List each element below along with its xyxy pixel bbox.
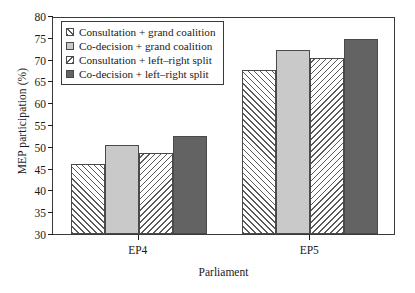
y-axis-tick-mark: [48, 38, 53, 39]
legend-item-2: Co-decision + grand coalition: [66, 39, 216, 53]
bar-ep5-series-1: [242, 70, 276, 234]
y-axis-tick-mark: [48, 81, 53, 82]
y-axis-tick-label: 55: [18, 120, 46, 132]
bar-ep4-series-1: [71, 164, 105, 234]
y-axis-tick-label: 35: [18, 207, 46, 219]
y-axis-tick-mark: [48, 60, 53, 61]
y-axis-tick-label: 30: [18, 229, 46, 241]
y-axis-tick-label: 45: [18, 164, 46, 176]
legend-swatch-icon: [66, 70, 74, 78]
legend-label: Consultation + grand coalition: [79, 26, 216, 39]
y-axis-tick-labels: 3035404550556065707580: [18, 11, 46, 235]
y-axis-tick-mark: [48, 147, 53, 148]
y-axis-tick-label: 80: [18, 11, 46, 23]
legend: Consultation + grand coalitionCo-decisio…: [61, 21, 224, 85]
y-axis-tick-label: 50: [18, 142, 46, 154]
y-axis-tick-label: 40: [18, 185, 46, 197]
legend-item-4: Co-decision + left–right split: [66, 67, 216, 81]
x-axis-tick-label-ep5: EP5: [274, 244, 344, 256]
bar-ep5-series-2: [276, 50, 310, 234]
y-axis-tick-mark: [48, 190, 53, 191]
x-axis-title: Parliament: [52, 266, 395, 278]
bar-chart-figure: MEP participation (%) 303540455055606570…: [0, 0, 415, 293]
y-axis-tick-label: 70: [18, 55, 46, 67]
legend-swatch-icon: [66, 56, 74, 64]
y-axis-tick-mark: [48, 212, 53, 213]
y-axis-tick-mark: [48, 16, 53, 17]
bar-ep4-series-4: [173, 136, 207, 234]
legend-item-3: Consultation + left–right split: [66, 53, 216, 67]
y-axis-tick-label: 60: [18, 98, 46, 110]
y-axis-tick-mark: [48, 169, 53, 170]
legend-swatch-icon: [66, 42, 74, 50]
y-axis-tick-mark: [48, 234, 53, 235]
legend-swatch-icon: [66, 28, 74, 36]
x-axis-tick-mark: [309, 235, 310, 240]
x-axis-tick-label-ep4: EP4: [103, 244, 173, 256]
y-axis-tick-mark: [48, 103, 53, 104]
bar-ep5-series-4: [344, 39, 378, 234]
legend-item-1: Consultation + grand coalition: [66, 25, 216, 39]
bar-ep4-series-3: [139, 153, 173, 234]
y-axis-tick-mark: [48, 125, 53, 126]
legend-label: Co-decision + grand coalition: [79, 40, 212, 53]
bar-ep5-series-3: [310, 58, 344, 234]
legend-label: Consultation + left–right split: [79, 54, 212, 67]
legend-label: Co-decision + left–right split: [79, 68, 209, 81]
bar-ep4-series-2: [105, 145, 139, 234]
y-axis-tick-label: 75: [18, 33, 46, 45]
y-axis-tick-label: 65: [18, 76, 46, 88]
x-axis-tick-mark: [138, 235, 139, 240]
